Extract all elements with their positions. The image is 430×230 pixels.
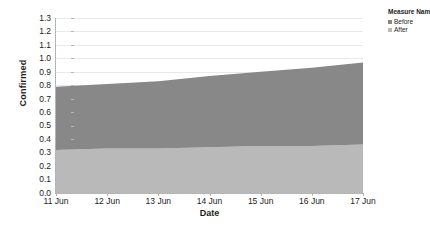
y-axis-tick-mark <box>71 166 74 167</box>
x-axis-tick-label: 17 Jun <box>350 196 376 206</box>
legend: Measure Names BeforeAfter <box>388 8 430 35</box>
y-axis-tick-mark <box>71 85 74 86</box>
y-axis-line <box>55 18 56 194</box>
x-axis-tick-mark <box>56 193 57 196</box>
y-axis-tick-label: 0.4 <box>21 135 51 144</box>
y-axis-tick-label: 1.3 <box>21 14 51 23</box>
y-axis-tick-mark <box>71 45 74 46</box>
y-axis-tick-mark <box>71 99 74 100</box>
stacked-area-series <box>56 18 363 193</box>
legend-item-label: Before <box>394 18 413 26</box>
x-axis-tick-label: 15 Jun <box>248 196 274 206</box>
y-axis-tick-mark <box>71 112 74 113</box>
y-axis-tick-mark <box>71 193 74 194</box>
legend-swatch-icon <box>388 28 392 32</box>
x-axis-tick-mark <box>312 193 313 196</box>
x-axis-tick-label: 12 Jun <box>94 196 120 206</box>
legend-swatch-icon <box>388 20 392 24</box>
y-axis-tick-mark <box>71 18 74 19</box>
x-axis-tick-mark <box>210 193 211 196</box>
y-axis-tick-mark <box>71 139 74 140</box>
y-axis-tick-label: 0.2 <box>21 162 51 171</box>
y-axis-tick-mark <box>71 58 74 59</box>
x-axis-tick-label: 16 Jun <box>299 196 325 206</box>
x-axis-tick-label: 14 Jun <box>197 196 223 206</box>
area-chart: 0.00.10.20.30.40.50.60.70.80.91.01.11.21… <box>0 0 430 230</box>
x-axis-tick-label: 11 Jun <box>44 196 69 206</box>
y-axis-tick-label: 0.1 <box>21 175 51 184</box>
x-axis-title: Date <box>56 208 363 218</box>
legend-item[interactable]: After <box>388 26 430 34</box>
legend-item-group: BeforeAfter <box>388 18 430 35</box>
y-axis-tick-label: 0.3 <box>21 148 51 157</box>
y-axis-title: Confirmed <box>18 38 28 128</box>
x-axis-tick-label: 13 Jun <box>146 196 172 206</box>
area-band-before <box>56 62 363 150</box>
legend-title: Measure Names <box>388 8 430 16</box>
y-axis-tick-mark <box>71 180 74 181</box>
y-axis-tick-mark <box>71 126 74 127</box>
x-axis-tick-mark <box>363 193 364 196</box>
area-band-after <box>56 145 363 193</box>
y-axis-tick-label: 1.2 <box>21 27 51 36</box>
x-axis-tick-mark <box>261 193 262 196</box>
x-axis-tick-mark <box>158 193 159 196</box>
x-axis-tick-mark <box>107 193 108 196</box>
legend-item-label: After <box>394 26 408 34</box>
y-axis-tick-mark <box>71 153 74 154</box>
y-axis-tick-mark <box>71 72 74 73</box>
legend-item[interactable]: Before <box>388 18 430 26</box>
y-axis-tick-mark <box>71 31 74 32</box>
plot-area <box>56 18 363 193</box>
